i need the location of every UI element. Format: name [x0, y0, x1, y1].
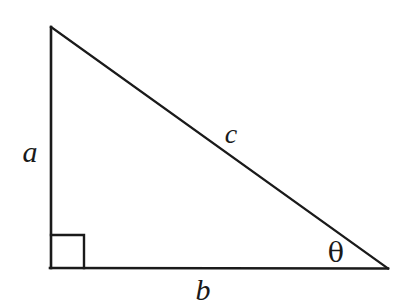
label-leg-a: a	[23, 137, 38, 167]
right-angle-marker-icon	[51, 235, 84, 268]
triangle-leg-b	[50, 268, 388, 269]
label-leg-b: b	[196, 275, 211, 305]
label-angle-theta: θ	[328, 239, 344, 266]
triangle-hypotenuse-c	[51, 27, 388, 269]
label-hypotenuse-c: c	[225, 120, 237, 148]
right-triangle-diagram: a c b θ	[0, 0, 401, 308]
